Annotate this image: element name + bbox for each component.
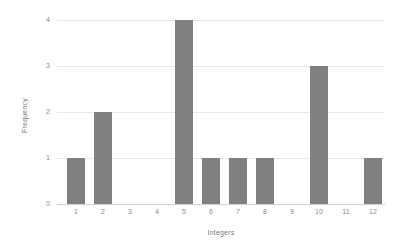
- y-tick-label-4: 4: [36, 16, 50, 23]
- y-tick-label-1: 1: [36, 154, 50, 161]
- x-axis-title: Integers: [57, 229, 385, 236]
- x-tick-label-6: 6: [197, 208, 225, 215]
- plot-area: [57, 20, 385, 204]
- x-tick-label-3: 3: [116, 208, 144, 215]
- x-tick-label-8: 8: [251, 208, 279, 215]
- x-tick-label-1: 1: [62, 208, 90, 215]
- bar-8: [256, 158, 274, 204]
- bars-layer: [57, 20, 385, 204]
- x-tick-label-7: 7: [224, 208, 252, 215]
- x-tick-label-9: 9: [278, 208, 306, 215]
- x-tick-label-4: 4: [143, 208, 171, 215]
- y-tick-label-3: 3: [36, 62, 50, 69]
- bar-5: [175, 20, 193, 204]
- x-tick-label-11: 11: [332, 208, 360, 215]
- y-tick-label-0: 0: [36, 200, 50, 207]
- x-tick-label-10: 10: [305, 208, 333, 215]
- bar-6: [202, 158, 220, 204]
- bar-12: [364, 158, 382, 204]
- x-tick-label-5: 5: [170, 208, 198, 215]
- x-tick-label-12: 12: [359, 208, 387, 215]
- bar-chart: Frequency 4 3 2 1 0 1 2 3 4 5 6 7 8 9 10…: [0, 0, 404, 250]
- y-axis-title-label: Frequency: [21, 16, 28, 216]
- bar-1: [67, 158, 85, 204]
- bar-7: [229, 158, 247, 204]
- bar-2: [94, 112, 112, 204]
- y-tick-label-2: 2: [36, 108, 50, 115]
- x-axis-line: [57, 204, 385, 205]
- bar-10: [310, 66, 328, 204]
- x-tick-label-2: 2: [89, 208, 117, 215]
